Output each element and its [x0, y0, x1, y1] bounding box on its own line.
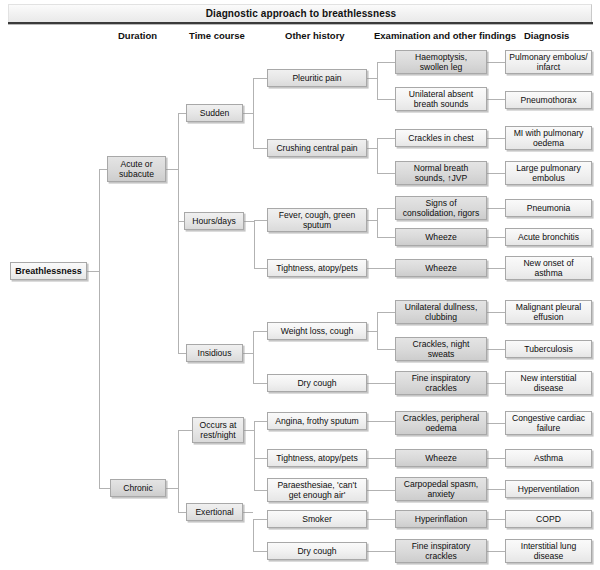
node-history-8[interactable]: Paraesthesiae, 'can'tget enough air' — [267, 478, 367, 502]
node-duration-0[interactable]: Acute orsubacute — [107, 156, 166, 182]
node-diagnosis-1[interactable]: Pneumothorax — [505, 91, 592, 109]
connector-line — [253, 519, 254, 551]
node-label: Breathlessness — [13, 266, 84, 276]
node-diagnosis-8[interactable]: Tuberculosis — [505, 340, 592, 358]
node-label: Exertional — [189, 507, 240, 517]
connector-line — [254, 268, 267, 269]
connector-line — [487, 519, 505, 520]
node-examination-12[interactable]: Carpopedal spasm,anxiety — [395, 477, 487, 501]
node-label: Pneumothorax — [508, 95, 589, 105]
connector-line — [377, 173, 395, 174]
node-label: COPD — [508, 514, 589, 524]
node-history-4[interactable]: Weight loss, cough — [267, 322, 367, 340]
node-examination-14[interactable]: Fine inspiratorycrackles — [395, 539, 487, 563]
node-history-2[interactable]: Fever, cough, greensputum — [267, 208, 367, 232]
connector-line — [367, 551, 395, 552]
node-examination-0[interactable]: Haemoptysis,swollen leg — [395, 50, 487, 74]
node-label: Crackles in chest — [398, 133, 484, 143]
node-root[interactable]: Breathlessness — [10, 262, 87, 280]
connector-line — [377, 208, 378, 237]
node-timecourse-1[interactable]: Hours/days — [184, 212, 244, 230]
node-label: Dry cough — [270, 378, 364, 388]
connector-line — [487, 423, 505, 424]
node-diagnosis-11[interactable]: Asthma — [505, 449, 592, 467]
node-diagnosis-3[interactable]: Large pulmonaryembolus — [505, 161, 592, 185]
node-label: Weight loss, cough — [270, 326, 364, 336]
node-history-6[interactable]: Angina, frothy sputum — [267, 412, 367, 430]
connector-line — [377, 62, 395, 63]
connector-line — [99, 488, 110, 489]
node-history-3[interactable]: Tightness, atopy/pets — [267, 259, 367, 277]
node-timecourse-4[interactable]: Exertional — [186, 503, 243, 521]
node-diagnosis-14[interactable]: Interstitial lungdisease — [505, 539, 592, 563]
connector-line — [243, 512, 253, 513]
node-history-5[interactable]: Dry cough — [267, 374, 367, 392]
node-timecourse-0[interactable]: Sudden — [186, 104, 243, 122]
connector-line — [487, 349, 505, 350]
node-label: Dry cough — [270, 546, 364, 556]
node-diagnosis-7[interactable]: Malignant pleuraleffusion — [505, 300, 592, 324]
node-diagnosis-13[interactable]: COPD — [505, 510, 592, 528]
node-label: Sudden — [189, 108, 240, 118]
connector-line — [367, 268, 395, 269]
node-label: Fever, cough, greensputum — [270, 210, 364, 230]
node-examination-9[interactable]: Fine inspiratorycrackles — [395, 371, 487, 395]
connector-line — [487, 312, 505, 313]
connector-line — [487, 383, 505, 384]
connector-line — [253, 331, 267, 332]
connector-line — [244, 430, 254, 431]
node-examination-13[interactable]: Hyperinflation — [395, 510, 487, 528]
node-examination-2[interactable]: Crackles in chest — [395, 129, 487, 147]
connector-line — [178, 113, 186, 114]
node-history-9[interactable]: Smoker — [267, 510, 367, 528]
node-examination-11[interactable]: Wheeze — [395, 449, 487, 467]
column-header-3: Examination and other findings — [374, 30, 516, 41]
connector-line — [254, 421, 255, 490]
connector-line — [367, 490, 395, 491]
node-diagnosis-12[interactable]: Hyperventilation — [505, 480, 592, 498]
node-diagnosis-10[interactable]: Congestive cardiacfailure — [505, 411, 592, 435]
connector-line — [253, 551, 267, 552]
node-diagnosis-0[interactable]: Pulmonary embolus/infarct — [505, 50, 592, 74]
node-diagnosis-5[interactable]: Acute bronchitis — [505, 228, 592, 246]
connector-line — [254, 490, 267, 491]
node-label: Paraesthesiae, 'can'tget enough air' — [270, 480, 364, 500]
connector-line — [254, 458, 267, 459]
node-label: Crackles, peripheraloedema — [398, 413, 484, 433]
node-label: Fine inspiratorycrackles — [398, 373, 484, 393]
node-history-1[interactable]: Crushing central pain — [267, 139, 367, 157]
connector-line — [377, 312, 395, 313]
node-duration-1[interactable]: Chronic — [110, 479, 166, 497]
connector-line — [377, 138, 378, 173]
column-header-0: Duration — [118, 30, 157, 41]
node-examination-1[interactable]: Unilateral absentbreath sounds — [395, 87, 487, 111]
node-diagnosis-9[interactable]: New interstitialdisease — [505, 371, 592, 395]
node-timecourse-3[interactable]: Occurs atrest/night — [192, 417, 244, 443]
node-label: Wheeze — [398, 453, 484, 463]
node-label: Signs ofconsolidation, rigors — [398, 198, 484, 218]
node-diagnosis-6[interactable]: New onset ofasthma — [505, 256, 592, 280]
node-examination-7[interactable]: Unilateral dullness,clubbing — [395, 300, 487, 324]
node-label: Tightness, atopy/pets — [270, 263, 364, 273]
column-header-1: Time course — [189, 30, 245, 41]
connector-line — [487, 551, 505, 552]
node-label: Chronic — [113, 483, 163, 493]
node-examination-3[interactable]: Normal breathsounds, ↑JVP — [395, 161, 487, 185]
node-examination-4[interactable]: Signs ofconsolidation, rigors — [395, 196, 487, 220]
column-header-4: Diagnosis — [524, 30, 569, 41]
node-label: Wheeze — [398, 232, 484, 242]
node-history-10[interactable]: Dry cough — [267, 542, 367, 560]
node-history-0[interactable]: Pleuritic pain — [267, 69, 367, 87]
node-examination-6[interactable]: Wheeze — [395, 259, 487, 277]
node-label: Asthma — [508, 453, 589, 463]
node-timecourse-2[interactable]: Insidious — [186, 344, 243, 362]
connector-line — [254, 220, 255, 268]
node-label: Normal breathsounds, ↑JVP — [398, 163, 484, 183]
node-diagnosis-2[interactable]: MI with pulmonaryoedema — [505, 126, 592, 150]
node-examination-10[interactable]: Crackles, peripheraloedema — [395, 411, 487, 435]
node-examination-8[interactable]: Crackles, nightsweats — [395, 337, 487, 361]
node-diagnosis-4[interactable]: Pneumonia — [505, 199, 592, 217]
connector-line — [367, 519, 395, 520]
node-examination-5[interactable]: Wheeze — [395, 228, 487, 246]
node-history-7[interactable]: Tightness, atopy/pets — [267, 449, 367, 467]
